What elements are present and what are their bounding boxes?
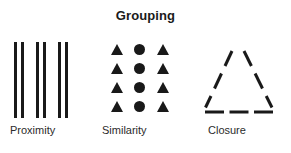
- similarity-cell: [110, 99, 124, 113]
- similarity-row: [98, 61, 182, 75]
- circle-icon: [134, 101, 145, 112]
- proximity-line: [14, 42, 17, 118]
- triangle-icon: [111, 101, 123, 112]
- proximity-line: [21, 42, 24, 118]
- similarity-illustration: [98, 38, 182, 120]
- panel-closure: Closure: [192, 38, 287, 148]
- proximity-line: [36, 42, 39, 118]
- circle-icon: [134, 63, 145, 74]
- similarity-cell: [133, 80, 147, 94]
- proximity-line: [43, 42, 46, 118]
- panel-label-closure: Closure: [192, 124, 246, 136]
- proximity-line: [58, 42, 61, 118]
- panel-similarity: Similarity: [98, 38, 182, 148]
- panel-proximity: Proximity: [4, 38, 88, 148]
- circle-icon: [134, 82, 145, 93]
- similarity-cell: [133, 61, 147, 75]
- similarity-cell: [133, 42, 147, 56]
- triangle-icon: [157, 63, 169, 74]
- proximity-illustration: [4, 38, 88, 120]
- proximity-line: [65, 42, 68, 118]
- dashed-triangle-icon: [192, 38, 287, 120]
- triangle-icon: [111, 44, 123, 55]
- circle-icon: [134, 44, 145, 55]
- similarity-cell: [133, 99, 147, 113]
- similarity-cell: [156, 80, 170, 94]
- triangle-icon: [157, 101, 169, 112]
- similarity-cell: [156, 42, 170, 56]
- similarity-cell: [110, 61, 124, 75]
- triangle-icon: [157, 44, 169, 55]
- panel-label-proximity: Proximity: [4, 124, 55, 136]
- panel-label-similarity: Similarity: [98, 124, 147, 136]
- similarity-row: [98, 80, 182, 94]
- triangle-icon: [157, 82, 169, 93]
- closure-illustration: [192, 38, 287, 120]
- similarity-cell: [110, 80, 124, 94]
- similarity-cell: [156, 61, 170, 75]
- similarity-row: [98, 42, 182, 56]
- similarity-row: [98, 99, 182, 113]
- grouping-figure: Grouping Proximity: [0, 0, 291, 153]
- similarity-cell: [156, 99, 170, 113]
- similarity-cell: [110, 42, 124, 56]
- page-title: Grouping: [0, 8, 291, 23]
- triangle-icon: [111, 63, 123, 74]
- triangle-icon: [111, 82, 123, 93]
